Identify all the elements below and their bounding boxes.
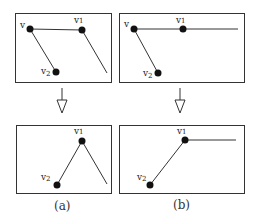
vertex-v xyxy=(27,26,34,33)
edge-v2-v1 xyxy=(150,140,185,185)
label-v1: v1 xyxy=(73,126,84,136)
vertex-v1 xyxy=(79,27,86,34)
vertex-v2 xyxy=(147,182,154,189)
edge-v1-open xyxy=(82,30,107,73)
label-v2: v2 xyxy=(142,68,153,80)
panel-a-before: v v1 v2 xyxy=(16,14,112,83)
frame xyxy=(17,126,112,194)
label-v2: v2 xyxy=(40,172,51,183)
panel-b-after: v1 v2 xyxy=(120,126,245,194)
down-arrow-b xyxy=(175,88,185,113)
panel-a-after: v1 v2 xyxy=(17,126,112,194)
vertex-v2 xyxy=(155,70,162,77)
label-v1: v1 xyxy=(73,15,84,25)
vertex-v1 xyxy=(79,138,86,145)
vertex-removal-diagram: v v1 v2 v v1 v2 v1 v2 xyxy=(0,0,259,221)
edge-v2-v1 xyxy=(57,141,82,185)
edge-v-v1 xyxy=(30,29,82,30)
caption-b: (b) xyxy=(173,198,190,212)
label-v2: v2 xyxy=(136,172,147,183)
vertex-v2 xyxy=(54,182,61,189)
vertex-v1 xyxy=(182,137,189,144)
label-v1: v1 xyxy=(176,126,187,136)
panel-b-before: v v1 v2 xyxy=(120,14,245,83)
label-v1: v1 xyxy=(175,15,186,25)
vertex-v1 xyxy=(180,26,187,33)
vertex-v2 xyxy=(53,69,60,76)
down-arrow-a xyxy=(57,88,67,113)
edge-v1-open xyxy=(82,141,107,184)
frame xyxy=(16,14,112,83)
edge-v-v2 xyxy=(134,29,158,73)
vertex-v xyxy=(131,26,138,33)
label-v2: v2 xyxy=(40,66,51,78)
caption-a: (a) xyxy=(54,199,71,213)
label-v: v xyxy=(123,19,130,29)
label-v: v xyxy=(19,20,26,30)
